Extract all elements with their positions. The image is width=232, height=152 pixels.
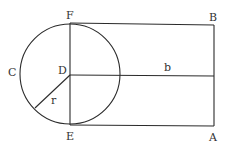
geometry-diagram: F B C D b r E A [0, 0, 232, 152]
label-C: C [8, 66, 16, 79]
label-E: E [66, 130, 74, 143]
label-D: D [58, 64, 67, 77]
label-r: r [51, 94, 57, 107]
label-B: B [209, 11, 217, 24]
label-A: A [208, 131, 218, 144]
label-F: F [66, 9, 74, 22]
diagram-svg: F B C D b r E A [0, 0, 232, 152]
segment-b [70, 75, 214, 76]
label-b: b [164, 61, 171, 74]
side-EA [70, 125, 214, 126]
side-FB [70, 23, 214, 25]
